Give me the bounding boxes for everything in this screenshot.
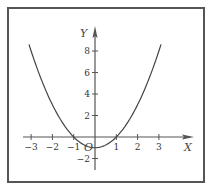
y-tick-label: 2 xyxy=(84,111,90,121)
parabola-chart: −3−2−11238642−2XYO xyxy=(0,0,209,187)
x-tick-label: 3 xyxy=(156,142,162,152)
y-tick-label: 4 xyxy=(84,89,90,99)
y-tick-label: 8 xyxy=(84,46,90,56)
x-tick-label: −2 xyxy=(46,142,59,152)
y-axis-label: Y xyxy=(80,27,89,40)
x-tick-label: −3 xyxy=(24,142,38,152)
y-tick-label: −2 xyxy=(77,154,90,164)
y-tick-label: 6 xyxy=(84,68,90,78)
x-tick-label: −1 xyxy=(67,142,80,152)
origin-label: O xyxy=(84,141,93,154)
x-tick-label: 1 xyxy=(113,142,119,152)
x-axis-label: X xyxy=(183,141,193,154)
x-tick-label: 2 xyxy=(135,142,141,152)
